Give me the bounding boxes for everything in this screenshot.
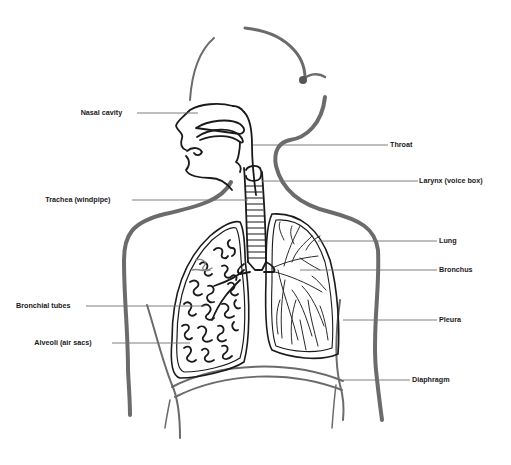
label-trachea: Trachea (windpipe) (45, 195, 110, 205)
anatomy-illustration (0, 0, 511, 465)
label-alveoli: Alveoli (air sacs) (34, 338, 91, 348)
body-outline (124, 28, 382, 438)
left-lung (171, 222, 249, 378)
label-bronchus: Bronchus (439, 265, 473, 275)
label-larynx: Larynx (voice box) (419, 176, 483, 186)
label-lung: Lung (439, 236, 457, 246)
label-bronchial-tubes: Bronchial tubes (16, 301, 70, 311)
label-diaphragm: Diaphragm (412, 375, 450, 385)
right-lung (266, 214, 339, 359)
label-pleura: Pleura (439, 315, 461, 325)
respiratory-system-diagram: Nasal cavity Trachea (windpipe) Bronchia… (0, 0, 511, 465)
label-throat: Throat (390, 140, 412, 150)
label-nasal-cavity: Nasal cavity (81, 108, 123, 118)
